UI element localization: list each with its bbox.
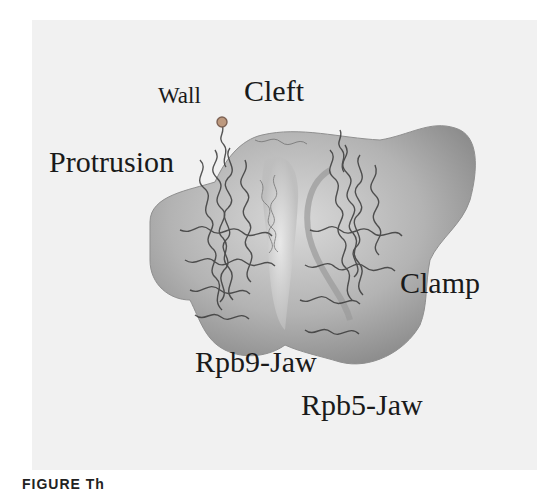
label-protrusion: Protrusion (49, 147, 174, 177)
label-cleft: Cleft (244, 76, 304, 106)
figure-caption-fragment: FIGURE Th (22, 476, 105, 492)
label-clamp: Clamp (400, 268, 480, 298)
label-wall: Wall (158, 84, 201, 107)
label-rpb9-jaw: Rpb9-Jaw (195, 347, 317, 377)
label-rpb5-jaw: Rpb5-Jaw (301, 390, 423, 420)
